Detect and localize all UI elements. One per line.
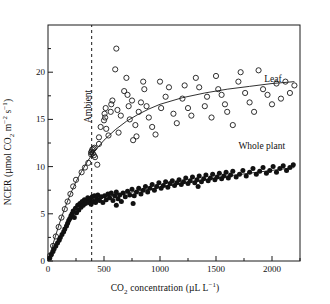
figure-container: 0500100015002000 05101520 CO2 concentrat…	[0, 0, 330, 304]
ambient-reference-label: Ambient	[83, 89, 93, 122]
y-axis-title-mid2: s	[3, 110, 13, 116]
y-tick-label: 0	[23, 256, 45, 266]
y-tick-label: 5	[23, 209, 45, 219]
y-axis-title-pre: NCER (µmol CO	[3, 137, 13, 205]
x-tick-label: 0	[46, 264, 51, 274]
x-tick-label: 1000	[151, 264, 169, 274]
y-tick-label: 15	[23, 114, 45, 124]
y-axis-title-post: )	[3, 99, 13, 102]
y-tick-label: 10	[23, 162, 45, 172]
y-axis-title: NCER (µmol CO2 m−2 s−1)	[0, 0, 15, 304]
x-tick-label: 500	[97, 264, 111, 274]
whole-plant-series-label: Whole plant	[238, 141, 285, 151]
y-axis-title-sup2: −1	[1, 102, 9, 110]
x-axis-title-mid: concentration (µL L	[128, 283, 209, 293]
leaf-data-points	[48, 46, 297, 258]
leaf-series-label: Leaf	[264, 74, 281, 84]
x-tick-label: 1500	[207, 264, 225, 274]
y-axis-title-sup1: −2	[1, 116, 9, 124]
plot-canvas	[0, 0, 330, 304]
x-axis-title-pre: CO	[111, 283, 124, 293]
whole-plant-data-points	[47, 162, 296, 260]
y-axis-title-mid: m	[3, 124, 13, 134]
x-tick-label: 2000	[263, 264, 281, 274]
x-axis-title-post: )	[216, 283, 219, 293]
axis-ticks	[48, 49, 300, 261]
y-tick-label: 20	[23, 67, 45, 77]
y-axis-title-sub: 2	[8, 134, 16, 138]
x-axis-title: CO2 concentration (µL L−1)	[0, 281, 330, 296]
x-axis-title-sup: −1	[208, 281, 216, 289]
